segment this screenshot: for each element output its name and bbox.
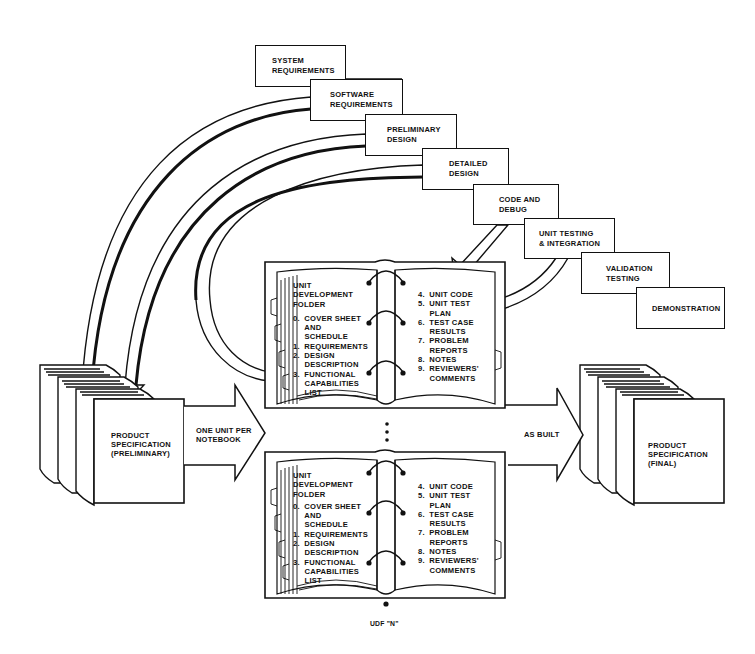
udf-item: DESCRIPTION (293, 548, 368, 557)
udf-n-label: UDF "N" (370, 619, 399, 628)
udf-item: 0. COVER SHEET (293, 502, 368, 511)
phase-label: UNIT TESTING & INTEGRATION (539, 229, 600, 249)
udf-item: 8. NOTES (418, 547, 479, 556)
phase-demonstration: DEMONSTRATION (636, 287, 725, 329)
phase-label: SYSTEM REQUIREMENTS (272, 56, 335, 76)
udf-item: 7. PROBLEM (418, 336, 479, 345)
udf-item: 5. UNIT TEST (418, 299, 479, 308)
udf-item: RESULTS (418, 327, 479, 336)
udf-item: REPORTS (418, 538, 479, 547)
udf-item: CAPABILITIES (293, 567, 368, 576)
udf-title-line: UNIT (293, 281, 368, 290)
phase-label: DETAILED DESIGN (449, 159, 488, 179)
udf-item: PLAN (418, 309, 479, 318)
udf-item: COMMENTS (418, 374, 479, 383)
udf-item: 4. UNIT CODE (418, 290, 479, 299)
udf-item: 7. PROBLEM (418, 528, 479, 537)
udf-item: 9. REVIEWERS' (418, 556, 479, 565)
udf-item: RESULTS (418, 519, 479, 528)
udf-item: 1. REQUIREMENTS (293, 342, 368, 351)
udf-item: CAPABILITIES (293, 379, 368, 388)
product-spec-preliminary-label: PRODUCT SPECIFICATION (PRELIMINARY) (111, 431, 171, 458)
udf-item: PLAN (418, 501, 479, 510)
udf-item: 3. FUNCTIONAL (293, 370, 368, 379)
udf-item: LIST (293, 576, 368, 585)
phase-label: CODE AND DEBUG (499, 195, 540, 215)
phase-label: VALIDATION TESTING (606, 264, 653, 284)
udf-bottom-left-page: UNIT DEVELOPMENT FOLDER 0. COVER SHEET A… (293, 471, 368, 586)
udf-item: 4. UNIT CODE (418, 482, 479, 491)
udf-top-left-page: UNIT DEVELOPMENT FOLDER 0. COVER SHEET A… (293, 281, 368, 398)
udf-title-line: DEVELOPMENT (293, 290, 368, 299)
product-spec-final-label: PRODUCT SPECIFICATION (FINAL) (648, 441, 708, 468)
udf-title-line: DEVELOPMENT (293, 480, 368, 489)
udf-title-line: FOLDER (293, 490, 368, 499)
udf-item: SCHEDULE (293, 520, 368, 529)
udf-item: AND (293, 511, 368, 520)
udf-item: 5. UNIT TEST (418, 491, 479, 500)
udf-title-line: FOLDER (293, 300, 368, 309)
udf-top-right-page: 4. UNIT CODE 5. UNIT TEST PLAN 6. TEST C… (418, 290, 479, 383)
udf-item: 1. REQUIREMENTS (293, 530, 368, 539)
phase-label: DEMONSTRATION (652, 304, 720, 314)
udf-item: 6. TEST CASE (418, 510, 479, 519)
udf-item: 0. COVER SHEET (293, 314, 368, 323)
one-unit-per-notebook-label: ONE UNIT PER NOTEBOOK (196, 426, 252, 444)
udf-item: 2. DESIGN (293, 539, 368, 548)
udf-title-line: UNIT (293, 471, 368, 480)
phase-label: PRELIMINARY DESIGN (387, 125, 441, 145)
udf-item: AND (293, 323, 368, 332)
udf-item: 9. REVIEWERS' (418, 364, 479, 373)
udf-item: LIST (293, 388, 368, 397)
udf-item: 3. FUNCTIONAL (293, 558, 368, 567)
udf-item: REPORTS (418, 346, 479, 355)
phase-label: SOFTWARE REQUIREMENTS (330, 90, 393, 110)
udf-process-diagram: SYSTEM REQUIREMENTS SOFTWARE REQUIREMENT… (0, 0, 755, 654)
as-built-label: AS BUILT (524, 430, 560, 439)
udf-item: 6. TEST CASE (418, 318, 479, 327)
udf-item: 8. NOTES (418, 355, 479, 364)
udf-item: COMMENTS (418, 566, 479, 575)
udf-item: SCHEDULE (293, 332, 368, 341)
udf-item: DESCRIPTION (293, 360, 368, 369)
udf-item: 2. DESIGN (293, 351, 368, 360)
udf-bottom-right-page: 4. UNIT CODE 5. UNIT TEST PLAN 6. TEST C… (418, 482, 479, 575)
